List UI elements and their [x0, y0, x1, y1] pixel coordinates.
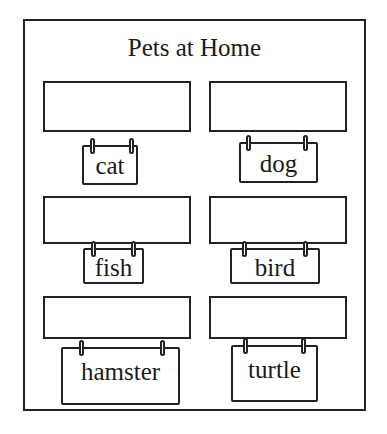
ring-icon: [129, 138, 134, 154]
ring-icon: [79, 340, 84, 356]
answer-box-bird[interactable]: [209, 196, 347, 244]
ring-icon: [303, 241, 308, 257]
tag-label: dog: [241, 151, 316, 176]
tag-cat: cat: [82, 145, 138, 185]
answer-box-dog[interactable]: [209, 81, 347, 132]
tag-label: fish: [85, 255, 142, 280]
answer-box-fish[interactable]: [43, 196, 191, 244]
ring-icon: [91, 241, 96, 257]
tag-turtle: turtle: [231, 345, 318, 402]
tag-label: bird: [232, 255, 318, 280]
ring-icon: [303, 135, 308, 151]
tag-label: hamster: [63, 359, 178, 384]
tag-bird: bird: [230, 248, 320, 284]
tag-label: cat: [84, 153, 136, 178]
ring-icon: [242, 241, 247, 257]
ring-icon: [301, 338, 306, 354]
ring-icon: [246, 135, 251, 151]
tag-fish: fish: [83, 248, 144, 284]
ring-icon: [243, 338, 248, 354]
ring-icon: [160, 340, 165, 356]
tag-hamster: hamster: [61, 347, 180, 405]
page-title: Pets at Home: [23, 34, 366, 62]
tag-dog: dog: [239, 142, 318, 183]
tag-label: turtle: [233, 357, 316, 382]
answer-box-hamster[interactable]: [43, 296, 191, 339]
ring-icon: [131, 241, 136, 257]
ring-icon: [90, 138, 95, 154]
answer-box-turtle[interactable]: [209, 296, 347, 339]
answer-box-cat[interactable]: [43, 81, 191, 132]
